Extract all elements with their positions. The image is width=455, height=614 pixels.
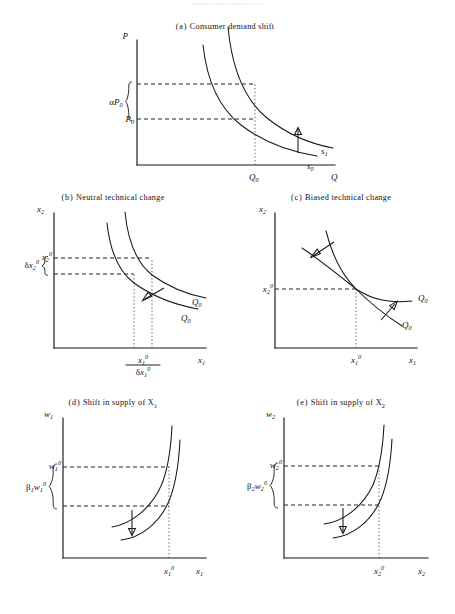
panel-c-arrow-lower [381, 304, 395, 320]
panel-e-curve-supply-shifted [333, 439, 392, 538]
panel-d-label-beta1-w1-0: β1w10 [26, 480, 47, 493]
panel-e: (e) Shift in supply of X2 w2 x2 β2w20 [232, 398, 450, 610]
panel-a-label-alpha-p0: αP0 [109, 97, 123, 108]
panel-b-curve-q0-inner [107, 223, 198, 309]
panel-a-x-tick-label-q0: Q0 [249, 172, 260, 183]
panel-c-title: (c) Biased technical change [232, 193, 450, 202]
panel-d-x-axis-label: x1 [195, 566, 203, 577]
page-bleed-text: reproduced from original page scan [0, 1, 455, 6]
panel-e-plot: w2 x2 β2w20 w20 x20 [232, 398, 450, 610]
panel-b-label-x2-0: x20 [41, 250, 53, 263]
panel-e-title-label: (e) [297, 398, 309, 407]
panel-b-x-axis-label: x1 [197, 355, 205, 366]
panel-a-plot: P Q Q0 αP0 P0 s1 s0 [95, 22, 355, 192]
panel-c-curve-label-q0-lower: Q0 [402, 320, 413, 331]
panel-a-curve-label-s0: s0 [307, 161, 315, 172]
panel-b-label-delta-x1-0: δx10 [136, 365, 151, 378]
panel-d-label-w1-0: w10 [49, 459, 62, 472]
panel-c-title-text: Biased technical change [305, 193, 391, 202]
panel-a-y-axis-label: P [122, 31, 129, 41]
panel-a: (a) Consumer demand shift P [95, 22, 355, 192]
panel-a-title-text: Consumer demand shift [190, 22, 275, 31]
panel-d-title-sub: 1 [154, 402, 158, 409]
panel-c-arrow-upper-head [310, 249, 320, 258]
panel-e-curve-supply-initial [324, 425, 384, 524]
panel-c-label-x1-0: x10 [350, 353, 362, 366]
panel-c-curve-q0-flat [302, 248, 412, 302]
panel-b-label-delta-x2-0: δx20 [25, 258, 40, 271]
panel-e-label-x2-0: x20 [373, 564, 385, 577]
panel-c-y-axis-label: x2 [258, 204, 266, 215]
panel-b-title-label: (b) [61, 193, 73, 202]
panel-a-title-label: (a) [176, 22, 188, 31]
panel-b-curve-label-q0-outer: Q0 [192, 297, 203, 308]
panel-e-title-text: Shift in supply of X [311, 398, 382, 407]
panel-b-title-text: Neutral technical change [76, 193, 165, 202]
panel-b-y-axis-label: x2 [36, 204, 44, 215]
panel-c-arrow-upper [313, 242, 334, 256]
figure-root: reproduced from original page scan (a) C… [0, 0, 455, 614]
panel-d-plot: w1 x1 β1w10 w10 x10 [6, 398, 220, 610]
panel-a-curve-label-s1: s1 [321, 146, 328, 157]
panel-a-title: (a) Consumer demand shift [95, 22, 355, 31]
panel-a-curve-s1 [228, 27, 333, 148]
panel-b-curve-label-q0-inner: Q0 [181, 313, 192, 324]
panel-c-curve-label-q0-right: Q0 [418, 293, 429, 304]
panel-d-label-x1-0: x10 [163, 564, 175, 577]
panel-d: (d) Shift in supply of X1 w1 x1 β1w1 [6, 398, 220, 610]
panel-a-curve-s0 [203, 45, 317, 156]
panel-a-label-p0: P0 [124, 114, 135, 125]
panel-b-title: (b) Neutral technical change [6, 193, 220, 202]
panel-c-plot: x2 x1 x20 x10 Q0 Q0 [232, 193, 450, 395]
panel-b: (b) Neutral technical change x2 x1 [6, 193, 220, 395]
panel-e-y-axis-label: w2 [266, 409, 275, 420]
panel-c: (c) Biased technical change x2 x1 [232, 193, 450, 395]
panel-d-title-label: (d) [68, 398, 80, 407]
panel-d-y-axis-label: w1 [44, 409, 53, 420]
panel-e-label-w2-0: w20 [270, 458, 283, 471]
panel-e-x-axis-label: x2 [417, 566, 425, 577]
panel-e-title: (e) Shift in supply of X2 [232, 398, 450, 409]
panel-c-curve-q0-steep [326, 231, 402, 326]
panel-d-title: (d) Shift in supply of X1 [6, 398, 220, 409]
panel-e-label-beta2-w2-0: β2w20 [247, 479, 268, 492]
panel-b-plot: x2 x1 δx20 x20 x10 δx10 Q0 Q0 [6, 193, 220, 395]
panel-c-title-label: (c) [291, 193, 303, 202]
panel-d-curve-supply-shifted [121, 440, 180, 540]
panel-c-x-axis-label: x1 [408, 355, 416, 366]
panel-c-label-x2-0: x20 [262, 282, 274, 295]
panel-a-x-axis-label: Q [331, 172, 338, 182]
panel-e-title-sub: 2 [382, 402, 386, 409]
panel-d-title-text: Shift in supply of X [83, 398, 154, 407]
